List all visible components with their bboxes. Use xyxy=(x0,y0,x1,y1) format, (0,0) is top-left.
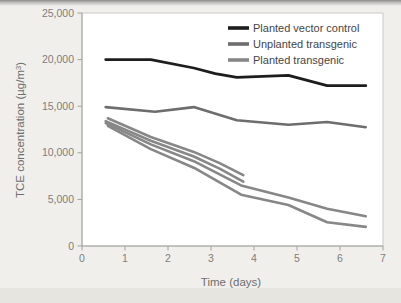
x-tick-label-1: 1 xyxy=(122,252,128,264)
legend-label-planted-transgenic: Planted transgenic xyxy=(253,54,345,66)
x-tick-label-0: 0 xyxy=(79,252,85,264)
y-tick-label-5000: 5,000 xyxy=(48,193,74,205)
figure: 0123456705,00010,00015,00020,00025,000 P… xyxy=(0,0,401,303)
legend: Planted vector controlUnplanted transgen… xyxy=(228,22,359,66)
x-tick-label-2: 2 xyxy=(165,252,171,264)
y-tick-label-0: 0 xyxy=(68,240,74,252)
y-axis-title: TCE concentration (µg/m3) xyxy=(14,62,27,198)
x-tick-label-7: 7 xyxy=(380,252,386,264)
legend-label-unplanted-transgenic: Unplanted transgenic xyxy=(253,38,357,50)
y-tick-label-10000: 10,000 xyxy=(42,146,74,158)
x-tick-label-6: 6 xyxy=(337,252,343,264)
x-tick-label-5: 5 xyxy=(294,252,300,264)
y-tick-label-25000: 25,000 xyxy=(42,7,74,19)
legend-label-planted-vector-control: Planted vector control xyxy=(253,22,359,34)
x-axis-title: Time (days) xyxy=(201,276,261,288)
x-tick-label-3: 3 xyxy=(208,252,214,264)
x-tick-label-4: 4 xyxy=(251,252,257,264)
y-tick-label-15000: 15,000 xyxy=(42,100,74,112)
tce-line-chart: 0123456705,00010,00015,00020,00025,000 P… xyxy=(0,0,401,303)
y-tick-label-20000: 20,000 xyxy=(42,53,74,65)
